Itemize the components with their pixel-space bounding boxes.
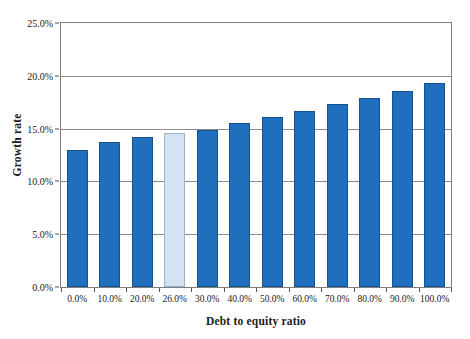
y-tick-label: 20.0% xyxy=(7,70,53,81)
x-tick-label: 90.0% xyxy=(390,294,415,304)
bar xyxy=(132,137,153,287)
y-tick-label: 0.0% xyxy=(7,282,53,293)
x-tick-label: 60.0% xyxy=(292,294,317,304)
bar xyxy=(424,83,445,287)
bar xyxy=(229,123,250,287)
bar xyxy=(164,133,185,287)
x-tick-mark xyxy=(451,288,452,292)
bar xyxy=(327,104,348,287)
y-axis-title: Growth rate xyxy=(3,0,29,290)
bar xyxy=(99,142,120,287)
bar xyxy=(294,111,315,287)
x-tick-label: 80.0% xyxy=(357,294,382,304)
x-tick-label: 50.0% xyxy=(260,294,285,304)
x-tick-mark xyxy=(159,288,160,292)
x-tick-label: 26.0% xyxy=(162,294,187,304)
x-tick-label: 20.0% xyxy=(130,294,155,304)
x-axis-title: Debt to equity ratio xyxy=(60,315,452,327)
x-tick-mark xyxy=(191,288,192,292)
y-tick-label: 25.0% xyxy=(7,18,53,29)
x-tick-mark xyxy=(94,288,95,292)
x-tick-mark xyxy=(321,288,322,292)
y-tick-mark xyxy=(55,75,59,76)
x-tick-label: 70.0% xyxy=(325,294,350,304)
x-tick-label: 40.0% xyxy=(227,294,252,304)
x-tick-mark xyxy=(126,288,127,292)
x-tick-label: 0.0% xyxy=(67,294,87,304)
bar-chart: Growth rate 0.0%5.0%10.0%15.0%20.0%25.0%… xyxy=(0,0,470,339)
x-tick-mark xyxy=(61,288,62,292)
bar xyxy=(392,91,413,287)
x-tick-mark xyxy=(224,288,225,292)
y-tick-label: 10.0% xyxy=(7,176,53,187)
y-tick-mark xyxy=(55,128,59,129)
bar xyxy=(67,150,88,287)
y-tick-mark xyxy=(55,23,59,24)
x-tick-label: 100.0% xyxy=(420,294,449,304)
y-tick-mark xyxy=(55,234,59,235)
x-tick-mark xyxy=(354,288,355,292)
bar xyxy=(197,130,218,287)
x-tick-mark xyxy=(419,288,420,292)
y-tick-label: 5.0% xyxy=(7,229,53,240)
y-tick-mark xyxy=(55,287,59,288)
y-tick-mark xyxy=(55,181,59,182)
x-tick-mark xyxy=(289,288,290,292)
x-tick-label: 30.0% xyxy=(195,294,220,304)
x-tick-mark xyxy=(386,288,387,292)
y-tick-label: 15.0% xyxy=(7,123,53,134)
bar xyxy=(262,117,283,287)
x-tick-mark xyxy=(256,288,257,292)
bar xyxy=(359,98,380,287)
bars-layer xyxy=(61,23,451,287)
x-tick-label: 10.0% xyxy=(97,294,122,304)
